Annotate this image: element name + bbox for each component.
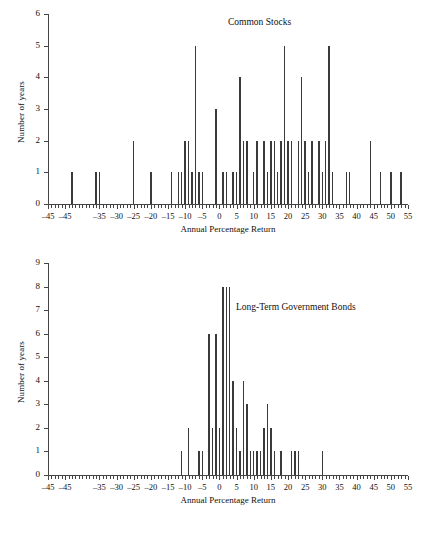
x-tick-minor — [333, 205, 334, 208]
x-tick-minor — [384, 476, 385, 479]
histogram-bar — [294, 451, 295, 475]
x-tick-minor — [144, 205, 145, 208]
chart-title: Long-Term Government Bonds — [236, 302, 356, 312]
x-tick-minor — [199, 205, 200, 208]
x-tick-minor — [363, 205, 364, 208]
x-tick-minor — [291, 205, 292, 208]
x-tick-minor — [72, 205, 73, 208]
x-tick-major — [288, 205, 289, 209]
y-tick-label: 8 — [24, 281, 40, 291]
x-tick-minor — [302, 476, 303, 479]
x-tick-major — [374, 476, 375, 480]
histogram-bar — [236, 428, 237, 475]
x-tick-minor — [226, 476, 227, 479]
y-tick-label: 1 — [24, 445, 40, 455]
x-tick-minor — [285, 476, 286, 479]
y-tick-label: 6 — [24, 8, 40, 18]
y-tick-label: 0 — [24, 469, 40, 479]
histogram-bar — [188, 141, 189, 204]
x-tick-minor — [257, 476, 258, 479]
x-tick-major — [237, 205, 238, 209]
histogram-bar — [222, 172, 223, 204]
histogram-bar — [277, 172, 278, 204]
x-tick-minor — [113, 205, 114, 208]
x-tick-minor — [123, 476, 124, 479]
x-tick-label: 55 — [395, 482, 421, 492]
histogram-bar — [232, 172, 233, 204]
histogram-bar — [236, 172, 237, 204]
x-tick-minor — [291, 476, 292, 479]
histogram-bar — [274, 141, 275, 204]
x-tick-minor — [113, 476, 114, 479]
x-tick-minor — [79, 205, 80, 208]
y-tick-label: 5 — [24, 40, 40, 50]
histogram-bar — [280, 141, 281, 204]
histogram-bar — [267, 404, 268, 475]
histogram-bar — [195, 46, 196, 204]
x-tick-major — [305, 205, 306, 209]
x-tick-minor — [343, 476, 344, 479]
x-tick-minor — [240, 476, 241, 479]
x-tick-minor — [161, 476, 162, 479]
x-tick-minor — [295, 476, 296, 479]
x-tick-minor — [120, 205, 121, 208]
x-tick-minor — [343, 205, 344, 208]
histogram-bar — [291, 451, 292, 475]
x-tick-minor — [401, 476, 402, 479]
x-tick-minor — [233, 476, 234, 479]
x-tick-major — [408, 205, 409, 209]
x-tick-minor — [182, 205, 183, 208]
histogram-bar — [328, 46, 329, 204]
x-tick-minor — [257, 205, 258, 208]
x-tick-minor — [319, 476, 320, 479]
y-tick-label: 5 — [24, 351, 40, 361]
x-tick-minor — [93, 205, 94, 208]
y-tick — [44, 310, 48, 311]
x-tick-minor — [309, 205, 310, 208]
histogram-bar — [133, 141, 134, 204]
y-axis-line — [48, 263, 49, 476]
x-tick-major — [134, 205, 135, 209]
x-tick-major — [357, 205, 358, 209]
x-tick-minor — [381, 476, 382, 479]
x-tick-minor — [178, 205, 179, 208]
histogram-bar — [181, 451, 182, 475]
y-tick — [44, 334, 48, 335]
histogram-bar — [178, 172, 179, 204]
x-tick-minor — [329, 205, 330, 208]
x-tick-minor — [161, 205, 162, 208]
x-tick-minor — [62, 476, 63, 479]
histogram-bar — [215, 109, 216, 204]
histogram-bar — [308, 172, 309, 204]
histogram-bar — [99, 172, 100, 204]
x-tick-minor — [346, 476, 347, 479]
histogram-bar — [284, 46, 285, 204]
x-tick-minor — [175, 476, 176, 479]
x-tick-major — [322, 205, 323, 209]
x-tick-minor — [370, 476, 371, 479]
x-tick-minor — [147, 205, 148, 208]
y-tick-label: 3 — [24, 398, 40, 408]
histogram-bar — [274, 451, 275, 475]
x-tick-minor — [312, 205, 313, 208]
x-tick-minor — [405, 205, 406, 208]
x-tick-major — [271, 205, 272, 209]
x-tick-minor — [274, 205, 275, 208]
histogram-bar — [198, 172, 199, 204]
x-tick-minor — [82, 205, 83, 208]
histogram-bar — [346, 172, 347, 204]
x-tick-minor — [195, 476, 196, 479]
x-tick-major — [117, 476, 118, 480]
y-tick-label: 1 — [24, 166, 40, 176]
x-tick-minor — [398, 205, 399, 208]
x-tick-major — [48, 476, 49, 480]
x-tick-minor — [281, 476, 282, 479]
x-tick-minor — [55, 476, 56, 479]
x-tick-major — [202, 476, 203, 480]
x-tick-major — [254, 205, 255, 209]
x-tick-minor — [199, 476, 200, 479]
x-tick-major — [151, 476, 152, 480]
x-tick-minor — [165, 476, 166, 479]
histogram-bar — [232, 381, 233, 475]
x-tick-minor — [226, 205, 227, 208]
